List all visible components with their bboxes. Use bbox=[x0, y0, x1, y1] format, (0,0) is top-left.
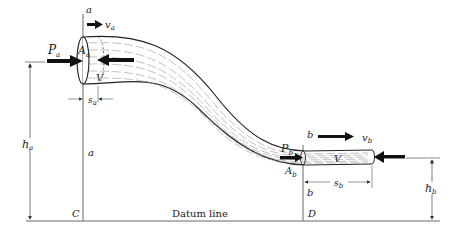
label-pa: Pa bbox=[47, 43, 60, 59]
pipe bbox=[77, 36, 375, 165]
label-pb: Pb bbox=[280, 142, 293, 157]
label-datum-line: Datum line bbox=[172, 208, 228, 219]
label-point-c: C bbox=[72, 208, 80, 219]
fluid-pipe-diagram: a va Pa Aa V sa ha a C Datum line b vb P… bbox=[0, 0, 458, 232]
label-vb: vb bbox=[362, 132, 373, 145]
label-section-a-mid: a bbox=[88, 147, 94, 158]
label-va: va bbox=[105, 19, 115, 32]
label-section-b-mid: b bbox=[307, 187, 313, 198]
label-section-a-top: a bbox=[86, 4, 92, 15]
label-section-b-top: b bbox=[307, 129, 313, 140]
label-point-d: D bbox=[307, 208, 316, 219]
label-sa: sa bbox=[88, 95, 97, 107]
label-ab: Ab bbox=[284, 165, 297, 179]
